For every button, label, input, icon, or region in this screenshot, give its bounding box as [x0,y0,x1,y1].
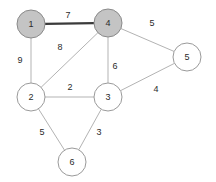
edge-weight-label-1-2: 9 [17,55,22,65]
node-label-2: 2 [28,92,33,102]
edge-weight-label-2-3: 2 [67,82,72,92]
edge-weight-label-2-6: 5 [39,127,44,137]
nodes-layer: 145236 [17,9,201,176]
edge-weight-label-1-4: 7 [65,10,70,20]
graph-edge-4-5 [121,29,174,52]
graph-edge-2-4 [41,33,98,88]
node-label-4: 4 [105,18,110,28]
graph-diagram: 798562453 145236 [0,0,216,182]
edge-weight-label-3-6: 3 [96,127,101,137]
graph-node-2[interactable]: 2 [17,83,45,111]
edge-weight-label-2-4: 8 [57,42,62,52]
graph-edge-1-4 [45,23,94,24]
graph-node-5[interactable]: 5 [173,43,201,71]
edge-weight-label-4-3: 6 [112,61,117,71]
edge-weight-label-3-5: 4 [153,84,158,94]
graph-node-6[interactable]: 6 [58,148,86,176]
node-label-3: 3 [105,92,110,102]
graph-node-1[interactable]: 1 [17,10,45,38]
node-label-5: 5 [184,52,189,62]
node-label-6: 6 [69,157,74,167]
graph-node-3[interactable]: 3 [94,83,122,111]
node-label-1: 1 [28,19,33,29]
edge-weight-label-4-5: 5 [149,18,154,28]
graph-svg-canvas: 798562453 145236 [0,0,216,182]
graph-node-4[interactable]: 4 [94,9,122,37]
graph-edge-3-5 [120,63,174,90]
